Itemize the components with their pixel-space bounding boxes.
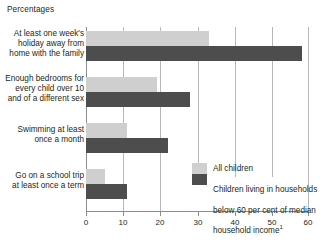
tick-20 bbox=[160, 212, 161, 216]
legend-label-low-income: Children living in households below 60 p… bbox=[213, 174, 317, 241]
legend-swatch-low-income bbox=[192, 174, 207, 185]
legend-label-line: Children living in households bbox=[213, 185, 317, 195]
category-label-line: holiday away from bbox=[4, 39, 84, 49]
bar-all-children-school-trip bbox=[86, 169, 105, 184]
legend-item-all-children: All children bbox=[192, 163, 317, 174]
bar-all-children-bedrooms bbox=[86, 77, 157, 92]
legend-label-line-with-footnote: household income1 bbox=[213, 226, 317, 236]
bar-all-children-holiday bbox=[86, 31, 209, 46]
category-label-line: at least once a term bbox=[4, 181, 84, 191]
footnote-marker: 1 bbox=[279, 224, 282, 230]
tick-label-10: 10 bbox=[119, 218, 128, 227]
category-label-line: At least one week's bbox=[4, 29, 84, 39]
tick-label-20: 20 bbox=[156, 218, 165, 227]
bar-low-income-school-trip bbox=[86, 184, 127, 199]
category-label-school-trip: Go on a school trip at least once a term bbox=[4, 171, 84, 191]
category-label-swimming: Swimming at least once a month bbox=[4, 125, 84, 145]
category-label-line: Swimming at least bbox=[4, 125, 84, 135]
chart-axis-title: Percentages bbox=[7, 5, 54, 14]
tick-0 bbox=[86, 212, 87, 216]
category-label-line: Go on a school trip bbox=[4, 171, 84, 181]
category-label-line: home with the family bbox=[4, 49, 84, 59]
legend-swatch-all-children bbox=[192, 163, 207, 174]
legend-item-low-income: Children living in households below 60 p… bbox=[192, 174, 317, 241]
bar-all-children-swimming bbox=[86, 123, 127, 138]
legend-label-line: household income bbox=[213, 226, 279, 235]
bar-low-income-bedrooms bbox=[86, 92, 190, 107]
category-label-line: every child over 10 bbox=[4, 84, 84, 94]
tick-10 bbox=[123, 212, 124, 216]
bar-low-income-holiday bbox=[86, 46, 302, 61]
bar-chart: Percentages At least one week's holiday … bbox=[0, 0, 332, 241]
tick-label-0: 0 bbox=[84, 218, 88, 227]
legend: All children Children living in househol… bbox=[192, 163, 317, 241]
category-label-line: Enough bedrooms for bbox=[4, 74, 84, 84]
category-label-line: and of a different sex bbox=[4, 94, 84, 104]
category-label-bedrooms: Enough bedrooms for every child over 10 … bbox=[4, 74, 84, 105]
legend-label-all-children: All children bbox=[213, 163, 253, 174]
category-label-holiday: At least one week's holiday away from ho… bbox=[4, 29, 84, 60]
bar-low-income-swimming bbox=[86, 138, 168, 153]
legend-label-line: below 60 per cent of median bbox=[213, 206, 317, 216]
category-label-line: once a month bbox=[4, 135, 84, 145]
